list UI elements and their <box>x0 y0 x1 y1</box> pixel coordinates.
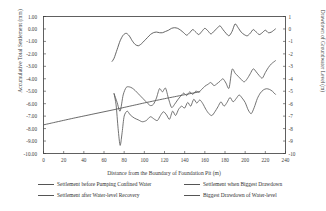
y-tick-label-right: -5 <box>289 88 313 94</box>
series-line-4 <box>112 24 275 61</box>
legend-line-swatch <box>184 195 200 196</box>
legend-line-swatch <box>38 195 54 196</box>
chart-legend: Settlement before Pumping Confined Water… <box>30 179 322 201</box>
legend-label: Settlement after Water-level Recovery <box>57 193 139 198</box>
series-line-1 <box>44 92 200 125</box>
y-tick-label-right: 1 <box>289 14 313 20</box>
y-tick-label-left: -4.00 <box>13 76 37 82</box>
y-tick-label-left: -6.00 <box>13 101 37 107</box>
x-tick-label: 180 <box>215 157 235 163</box>
y-tick-label-right: -9 <box>289 138 313 144</box>
y-tick-label-left: -8.00 <box>13 126 37 132</box>
y-tick-label-right: -8 <box>289 126 313 132</box>
y-tick-label-right: -2 <box>289 51 313 57</box>
y-tick-label-left: -5.00 <box>13 88 37 94</box>
series-line-2 <box>114 89 275 146</box>
plot-frame <box>44 17 286 154</box>
y-tick-label-left: 0.00 <box>13 26 37 32</box>
y-tick-label-left: -2.00 <box>13 51 37 57</box>
x-tick-label: 20 <box>54 157 74 163</box>
y-tick-label-right: -3 <box>289 63 313 69</box>
y-tick-label-right: -4 <box>289 76 313 82</box>
y-tick-label-left: -1.00 <box>13 38 37 44</box>
legend-item[interactable]: Settlement when Biggest Drawdown <box>176 179 322 190</box>
legend-item[interactable]: Settlement before Pumping Confined Water <box>30 179 176 190</box>
y-tick-label-right: -7 <box>289 113 313 119</box>
x-tick-label: 80 <box>114 157 134 163</box>
series-line-3 <box>114 61 275 112</box>
x-tick-label: 120 <box>155 157 175 163</box>
x-tick-label: 0 <box>34 157 54 163</box>
x-tick-label: 40 <box>74 157 94 163</box>
legend-label: Biggest Drawdown of Water-level <box>203 193 277 198</box>
y-tick-label-right: -1 <box>289 38 313 44</box>
x-tick-label: 140 <box>175 157 195 163</box>
y-tick-label-left: -3.00 <box>13 63 37 69</box>
y-tick-label-left: -9.00 <box>13 138 37 144</box>
legend-label: Settlement before Pumping Confined Water <box>57 182 151 187</box>
x-tick-label: 220 <box>255 157 275 163</box>
x-tick-label: 60 <box>94 157 114 163</box>
y-tick-label-left: -7.00 <box>13 113 37 119</box>
legend-line-swatch <box>184 184 200 185</box>
y-tick-label-right: -6 <box>289 101 313 107</box>
legend-line-swatch <box>38 184 54 185</box>
y-tick-label-left: 1.00 <box>13 14 37 20</box>
x-tick-label: 200 <box>235 157 255 163</box>
y-tick-label-right: 0 <box>289 26 313 32</box>
legend-label: Settlement when Biggest Drawdown <box>203 182 282 187</box>
x-tick-label: 160 <box>195 157 215 163</box>
x-tick-label: 240 <box>276 157 296 163</box>
legend-item[interactable]: Biggest Drawdown of Water-level <box>176 190 322 201</box>
legend-item[interactable]: Settlement after Water-level Recovery <box>30 190 176 201</box>
x-tick-label: 100 <box>134 157 154 163</box>
